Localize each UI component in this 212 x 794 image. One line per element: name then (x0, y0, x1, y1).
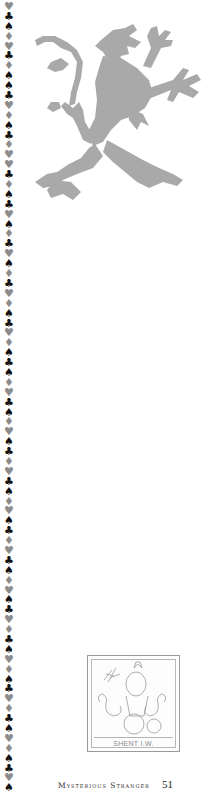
bookplate-illustration: SHENT I.W. (87, 655, 180, 752)
bookplate-caption: SHENT I.W. (88, 740, 179, 747)
lion-icon (33, 22, 208, 214)
spade-suit-icon: ♠ (2, 783, 16, 792)
caption-rule (94, 737, 173, 738)
suit-border: ♥♣♠♦♥♣♦♠♠♣♥♦♠♣♦♥♥♣♦♠♣♥♠♦♣♥♠♦♣♥♦♠♣♥♦♠♣♠♦♥… (2, 2, 16, 792)
page-footer: Mysterious Stranger 51 (55, 778, 205, 792)
running-title: Mysterious Stranger (58, 781, 150, 790)
lion-rampant-illustration (33, 22, 208, 214)
page-number: 51 (162, 778, 173, 790)
swans-figure-engraving-icon (90, 658, 177, 738)
